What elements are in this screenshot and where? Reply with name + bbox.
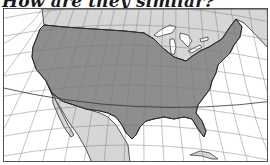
us-map (3, 8, 268, 162)
map-svg (4, 9, 268, 162)
